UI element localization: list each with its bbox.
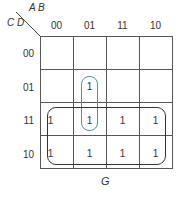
grouping-loop-black	[47, 107, 166, 165]
grid-line	[40, 102, 173, 103]
grid-line	[40, 36, 173, 37]
row-header: 10	[10, 149, 34, 160]
row-header: 11	[10, 115, 34, 126]
output-label: G	[101, 175, 110, 187]
column-header: 11	[106, 20, 139, 31]
grid-line	[40, 69, 173, 70]
grid-line	[40, 168, 173, 169]
column-header: 00	[40, 20, 73, 31]
column-header: 01	[73, 20, 106, 31]
column-header: 10	[139, 20, 172, 31]
row-variables-label: C D	[7, 17, 24, 28]
column-variables-label: A B	[29, 2, 45, 13]
row-header: 00	[10, 48, 34, 59]
row-header: 01	[10, 82, 34, 93]
